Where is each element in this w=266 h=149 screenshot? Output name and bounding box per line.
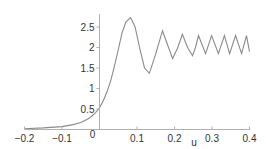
x-tick-label: 0.4 [243, 133, 257, 144]
x-tick-label: 0 [90, 129, 96, 140]
x-tick-label: 0.3 [205, 133, 219, 144]
x-tick-label: 0.2 [168, 133, 182, 144]
y-tick-label: 1.5 [81, 63, 95, 74]
y-tick-label: 2.5 [81, 22, 95, 33]
x-axis-label: u [191, 137, 197, 148]
plot-area [25, 18, 250, 129]
line-chart: −0.2−0.100.10.20.30.4 u 0.511.522.5 [0, 0, 266, 149]
y-ticks: 0.511.522.5 [81, 22, 100, 115]
y-tick-label: 1 [89, 83, 95, 94]
y-tick-label: 0.5 [81, 104, 95, 115]
x-tick-label: 0.1 [130, 133, 144, 144]
x-tick-label: −0.2 [15, 133, 35, 144]
y-tick-label: 2 [89, 42, 95, 53]
x-axis: −0.2−0.100.10.20.30.4 u [15, 127, 257, 149]
data-curve [25, 18, 250, 129]
x-tick-label: −0.1 [52, 133, 72, 144]
y-axis: 0.511.522.5 [81, 14, 100, 130]
